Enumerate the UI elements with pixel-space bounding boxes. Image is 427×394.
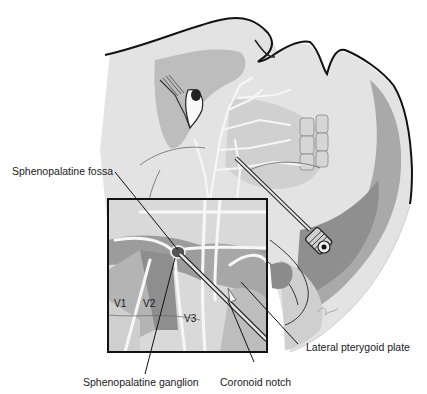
- label-lateral-pterygoid-plate: Lateral pterygoid plate: [306, 341, 410, 353]
- anatomical-illustration: Sphenopalatine fossa Sphenopalatine gang…: [0, 0, 427, 394]
- inset-magnified-view: [108, 199, 267, 352]
- head-drawing: [0, 0, 427, 394]
- label-coronoid-notch: Coronoid notch: [220, 376, 291, 388]
- label-v3: V3: [184, 313, 196, 324]
- label-sphenopalatine-ganglion: Sphenopalatine ganglion: [83, 376, 199, 388]
- label-v2: V2: [143, 298, 155, 309]
- label-sphenopalatine-fossa: Sphenopalatine fossa: [12, 165, 113, 177]
- molars: [300, 115, 328, 170]
- label-v1: V1: [114, 298, 126, 309]
